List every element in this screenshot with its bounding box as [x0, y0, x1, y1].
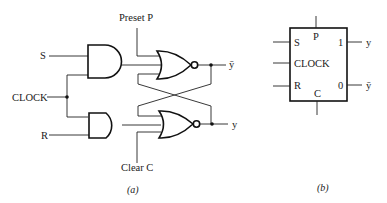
- figure-b-block-symbol: P S CLOCK R C 1 0 y ȳ (b): [273, 16, 372, 194]
- one-pin-label: 1: [338, 37, 343, 48]
- y-bar-junction-dot: [209, 63, 213, 67]
- bottom-nor-bubble: [193, 121, 199, 127]
- s-pin-label: S: [294, 37, 300, 48]
- y-bar-output-label-b: ȳ: [366, 80, 372, 91]
- clock-pin-label: CLOCK: [294, 58, 330, 69]
- top-nor-bubble: [191, 62, 197, 68]
- y-junction-dot: [210, 122, 214, 126]
- clear-c-label: Clear C: [121, 162, 153, 173]
- r-pin-label: R: [294, 80, 301, 91]
- clock-input-label: CLOCK: [12, 92, 48, 103]
- zero-pin-label: 0: [338, 80, 343, 91]
- s-input-label: S: [40, 50, 46, 61]
- clear-wire: [137, 132, 161, 163]
- flip-flop-diagram: Preset P S CLOCK R Clear C ȳ y (a): [0, 0, 387, 203]
- y-output-label-b: y: [366, 37, 372, 48]
- preset-p-label: Preset P: [119, 12, 153, 23]
- figure-a-logic-circuit: Preset P S CLOCK R Clear C ȳ y (a): [12, 12, 238, 196]
- y-output-label: y: [232, 119, 238, 130]
- y-bar-output-label: ȳ: [229, 59, 235, 70]
- figure-a-caption: (a): [127, 184, 139, 196]
- top-nor-gate: [157, 51, 191, 79]
- c-pin-label: C: [314, 88, 321, 99]
- clock-junction-dot: [65, 95, 69, 99]
- figure-b-caption: (b): [317, 182, 329, 194]
- top-and-gate: [88, 45, 122, 78]
- clock-branch-wire: [67, 75, 88, 117]
- r-input-label: R: [41, 130, 48, 141]
- bottom-nor-gate: [159, 111, 193, 138]
- preset-wire: [137, 28, 160, 56]
- bottom-and-gate: [89, 113, 112, 138]
- p-pin-label: P: [313, 31, 319, 42]
